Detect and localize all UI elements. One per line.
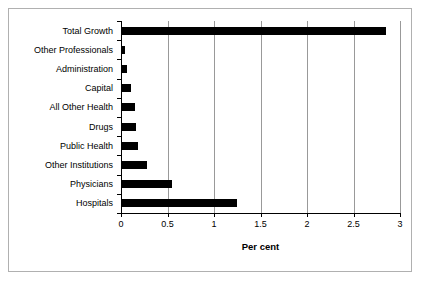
y-axis-tick-label: Total Growth	[62, 26, 117, 36]
x-axis-tick-label: 1.5	[254, 219, 267, 229]
y-axis-tick	[117, 117, 121, 118]
y-axis-label-row: Public Health	[9, 136, 117, 155]
y-axis-tick	[117, 40, 121, 41]
y-axis-tick-label: Physicians	[70, 179, 117, 189]
gridline	[400, 21, 401, 213]
y-axis-category-labels: Total Growth Other Professionals Adminis…	[9, 21, 117, 213]
bar-row	[121, 79, 400, 98]
y-axis-tick	[117, 98, 121, 99]
bar-row	[121, 136, 400, 155]
x-axis-title: Per cent	[121, 241, 400, 252]
bar-row	[121, 155, 400, 174]
x-axis-tick	[400, 213, 401, 217]
y-axis-tick	[117, 194, 121, 195]
x-axis-tick-label: 0	[118, 219, 123, 229]
x-axis-tick	[214, 213, 215, 217]
y-axis-tick-label: Other Professionals	[34, 45, 117, 55]
y-axis-label-row: Total Growth	[9, 21, 117, 40]
x-axis-tick-label: 3	[397, 219, 402, 229]
y-axis-tick-label: Hospitals	[76, 198, 117, 208]
bar-series	[121, 21, 400, 213]
y-axis-tick	[117, 175, 121, 176]
y-axis-tick-label: All Other Health	[49, 102, 117, 112]
y-axis-tick	[117, 59, 121, 60]
y-axis-tick	[117, 136, 121, 137]
bar	[121, 161, 147, 169]
y-axis-tick-label: Administration	[56, 64, 117, 74]
y-axis-tick	[117, 213, 121, 214]
y-axis-label-row: All Other Health	[9, 98, 117, 117]
y-axis-label-row: Capital	[9, 79, 117, 98]
y-axis-tick	[117, 79, 121, 80]
y-axis-label-row: Other Institutions	[9, 155, 117, 174]
y-axis-tick-label: Public Health	[60, 141, 117, 151]
y-axis-label-row: Physicians	[9, 175, 117, 194]
bar	[121, 199, 237, 207]
y-axis-tick-label: Other Institutions	[45, 160, 117, 170]
y-axis-label-row: Administration	[9, 59, 117, 78]
x-axis-tick	[121, 213, 122, 217]
bar	[121, 180, 172, 188]
bar	[121, 142, 138, 150]
y-axis-tick	[117, 155, 121, 156]
plot-area	[121, 21, 400, 213]
x-axis-tick-label: 1	[211, 219, 216, 229]
y-axis-tick-label: Drugs	[89, 122, 117, 132]
bar	[121, 84, 131, 92]
bar-row	[121, 21, 400, 40]
y-axis-label-row: Hospitals	[9, 194, 117, 213]
x-axis-tick	[168, 213, 169, 217]
y-axis-tick	[117, 21, 121, 22]
x-axis-tick	[307, 213, 308, 217]
bar	[121, 103, 135, 111]
chart-frame: Total Growth Other Professionals Adminis…	[8, 8, 412, 272]
bar-row	[121, 98, 400, 117]
bar	[121, 27, 386, 35]
bar-row	[121, 175, 400, 194]
bar	[121, 123, 136, 131]
bar-row	[121, 194, 400, 213]
bar	[121, 46, 125, 54]
bar-row	[121, 59, 400, 78]
y-axis-label-row: Other Professionals	[9, 40, 117, 59]
bar	[121, 65, 127, 73]
y-axis-tick-label: Capital	[85, 83, 117, 93]
bar-row	[121, 40, 400, 59]
bar-row	[121, 117, 400, 136]
y-axis-label-row: Drugs	[9, 117, 117, 136]
x-axis-tick-label: 0.5	[161, 219, 174, 229]
x-axis-tick	[354, 213, 355, 217]
x-axis-tick	[261, 213, 262, 217]
x-axis-tick-label: 2	[304, 219, 309, 229]
x-axis-tick-label: 2.5	[347, 219, 360, 229]
